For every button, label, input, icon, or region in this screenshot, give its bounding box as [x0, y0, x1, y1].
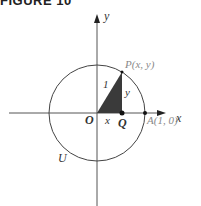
point-p — [121, 71, 124, 74]
triangle-opq — [97, 72, 122, 113]
y-axis-arrow-icon — [94, 14, 100, 23]
circle-u-label: U — [58, 151, 68, 165]
point-p-label: P(x, y) — [124, 58, 155, 71]
point-a-label: A(1, 0) — [146, 114, 178, 127]
y-axis-label: y — [103, 9, 110, 23]
unit-circle-diagram: y x P(x, y) 1 y O x Q A(1, 0) U — [0, 0, 201, 206]
leg-x-label: x — [104, 114, 110, 126]
hypotenuse-label: 1 — [103, 78, 109, 90]
point-q-label: Q — [118, 116, 127, 130]
leg-y-label: y — [124, 86, 130, 98]
origin-label: O — [85, 113, 94, 127]
point-q — [120, 111, 125, 116]
